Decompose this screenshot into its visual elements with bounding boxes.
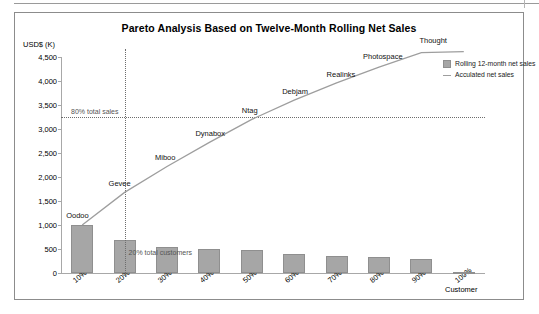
cumulative-line-series: [15, 13, 525, 301]
legend-item-line: Acculated net sales: [443, 70, 523, 79]
cumulative-point-label: Gevee: [109, 179, 131, 188]
cumulative-point-label: Photospace: [363, 52, 403, 61]
cumulative-point-label: Oodoo: [66, 211, 89, 220]
legend-label-bars: Rolling 12-month net sales: [455, 60, 535, 67]
legend-line-icon: [443, 71, 451, 79]
legend-item-bars: Rolling 12-month net sales: [443, 59, 523, 68]
legend-swatch-icon: [443, 60, 451, 68]
cumulative-point-label: Miboo: [155, 153, 175, 162]
chart-legend: Rolling 12-month net sales Acculated net…: [443, 59, 523, 81]
cumulative-point-label: Realinks: [327, 70, 356, 79]
cumulative-point-label: Thought: [419, 36, 447, 45]
legend-label-line: Acculated net sales: [455, 71, 514, 78]
cumulative-point-label: Dynabox: [195, 129, 225, 138]
document-top-rule-tick: [524, 0, 525, 8]
cumulative-point-label: Ntag: [242, 106, 258, 115]
document-top-rule: [14, 3, 539, 4]
chart-frame: Pareto Analysis Based on Twelve-Month Ro…: [14, 12, 524, 300]
cumulative-point-label: Debjam: [282, 87, 308, 96]
